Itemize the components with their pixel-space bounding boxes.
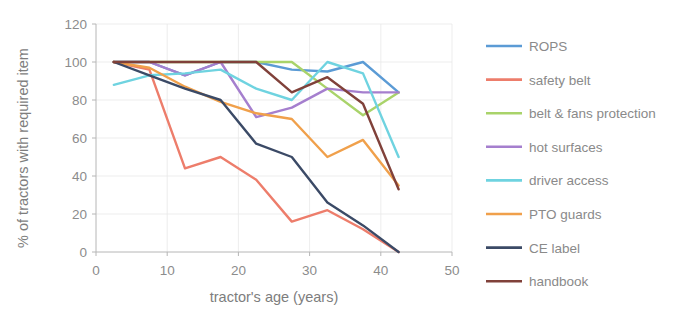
legend-item-rops[interactable]: ROPS bbox=[486, 39, 567, 54]
legend-label-driver-access: driver access bbox=[529, 173, 609, 188]
legend-label-belt-fans-protection: belt & fans protection bbox=[529, 106, 656, 121]
legend-item-driver-access[interactable]: driver access bbox=[486, 173, 609, 188]
legend-item-hot-surfaces[interactable]: hot surfaces bbox=[486, 140, 603, 155]
y-tick-label: 80 bbox=[72, 93, 87, 108]
x-tick-label: 10 bbox=[160, 263, 175, 278]
legend-label-hot-surfaces: hot surfaces bbox=[529, 140, 603, 155]
y-tick-label: 100 bbox=[64, 55, 87, 70]
axis-lines-group bbox=[92, 24, 452, 256]
legend: ROPSsafety beltbelt & fans protectionhot… bbox=[486, 39, 656, 289]
y-tick-label: 0 bbox=[79, 245, 87, 260]
legend-label-handbook: handbook bbox=[529, 274, 589, 289]
gridlines-group bbox=[96, 24, 452, 252]
y-tick-label: 20 bbox=[72, 207, 87, 222]
data-series-group bbox=[114, 62, 399, 252]
y-axis-title: % of tractors with required item bbox=[15, 48, 31, 248]
legend-item-safety-belt[interactable]: safety belt bbox=[486, 73, 591, 88]
chart-canvas: 020406080100120 01020304050 tractor's ag… bbox=[0, 0, 690, 333]
x-tick-label: 0 bbox=[92, 263, 100, 278]
legend-item-ce-label[interactable]: CE label bbox=[486, 241, 580, 256]
legend-item-pto-guards[interactable]: PTO guards bbox=[486, 207, 602, 222]
x-tick-label: 40 bbox=[373, 263, 388, 278]
series-line-pto-guards bbox=[114, 62, 399, 186]
legend-label-safety-belt: safety belt bbox=[529, 73, 591, 88]
legend-label-pto-guards: PTO guards bbox=[529, 207, 602, 222]
x-tick-labels-group: 01020304050 bbox=[92, 263, 459, 278]
legend-item-handbook[interactable]: handbook bbox=[486, 274, 589, 289]
x-tick-label: 30 bbox=[302, 263, 317, 278]
series-line-handbook bbox=[114, 62, 399, 189]
x-tick-label: 50 bbox=[444, 263, 459, 278]
legend-label-rops: ROPS bbox=[529, 39, 567, 54]
y-tick-label: 120 bbox=[64, 17, 87, 32]
y-tick-label: 40 bbox=[72, 169, 87, 184]
legend-item-belt-fans-protection[interactable]: belt & fans protection bbox=[486, 106, 656, 121]
legend-label-ce-label: CE label bbox=[529, 241, 580, 256]
y-tick-label: 60 bbox=[72, 131, 87, 146]
x-tick-label: 20 bbox=[231, 263, 246, 278]
x-axis-title: tractor's age (years) bbox=[210, 289, 338, 305]
line-chart-figure: 020406080100120 01020304050 tractor's ag… bbox=[0, 0, 690, 333]
y-tick-labels-group: 020406080100120 bbox=[64, 17, 87, 260]
